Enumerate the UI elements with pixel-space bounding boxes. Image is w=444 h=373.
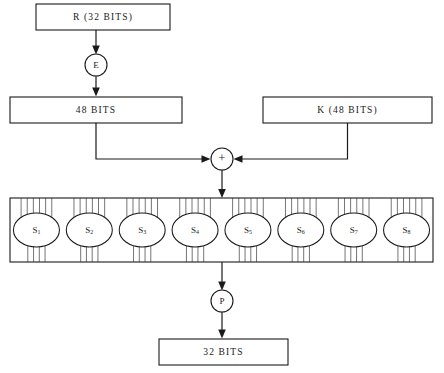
arrow-head-key-to-xor <box>234 155 243 163</box>
sbox-6: S6 <box>278 213 324 247</box>
diagram-canvas: R (32 BITS) E 48 BITS K (48 BITS) <box>0 0 444 373</box>
sbox-5: S5 <box>225 213 271 247</box>
sbox-subscript: 6 <box>302 229 305 235</box>
arrow-head-sboxes-to-p <box>218 282 226 291</box>
arrow-head-r-to-e <box>92 46 100 55</box>
output-box-32bits: 32 BITS <box>159 339 288 365</box>
wire-xor-to-sboxes <box>218 170 226 198</box>
sbox-3: S3 <box>119 213 165 247</box>
sbox-7: S7 <box>331 213 377 247</box>
wire-p-to-output <box>218 312 226 339</box>
sbox-subscript: 8 <box>408 229 411 235</box>
expanded-box-48bits: 48 BITS <box>10 97 182 123</box>
sbox-subscript: 2 <box>90 229 93 235</box>
output-box-32bits-label: 32 BITS <box>203 347 244 357</box>
permutation-node-p-label: P <box>219 296 224 306</box>
sbox-2: S2 <box>66 213 112 247</box>
sbox-4: S4 <box>172 213 218 247</box>
key-box-k: K (48 BITS) <box>263 97 432 123</box>
expansion-node-e-label: E <box>93 60 99 70</box>
wire-key-to-xor <box>234 123 348 163</box>
sbox-subscript: 7 <box>355 229 358 235</box>
expanded-box-48bits-label: 48 BITS <box>76 105 117 115</box>
arrow-head-p-to-output <box>218 330 226 339</box>
xor-node: + <box>211 148 233 170</box>
xor-node-label: + <box>219 151 226 165</box>
key-box-k-label: K (48 BITS) <box>317 105 378 116</box>
wire-sboxes-to-p <box>218 262 226 291</box>
sbox-panel: S1S2S3S4S5S6S7S8 <box>10 198 433 262</box>
expansion-node-e: E <box>85 54 107 76</box>
sbox-1: S1 <box>13 213 59 247</box>
sbox-subscript: 5 <box>249 229 252 235</box>
wire-e-to-expanded <box>92 76 100 97</box>
arrow-head-expanded-to-xor <box>202 155 211 163</box>
arrow-head-xor-to-sboxes <box>218 189 226 198</box>
des-function-diagram: R (32 BITS) E 48 BITS K (48 BITS) <box>0 0 444 373</box>
input-box-r-label: R (32 BITS) <box>73 12 133 23</box>
wire-expanded-to-xor <box>96 123 211 163</box>
permutation-node-p: P <box>211 290 233 312</box>
sbox-subscript: 1 <box>37 229 40 235</box>
sbox-subscript: 3 <box>143 229 146 235</box>
sbox-subscript: 4 <box>196 229 199 235</box>
arrow-head-e-to-expanded <box>92 88 100 97</box>
wire-r-to-e <box>92 30 100 55</box>
input-box-r: R (32 BITS) <box>36 4 170 30</box>
sbox-8: S8 <box>384 213 430 247</box>
